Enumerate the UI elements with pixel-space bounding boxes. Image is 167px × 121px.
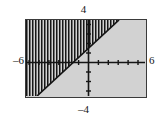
y-axis-min-label: –4 [0, 104, 167, 115]
shaded-solution-region [26, 20, 119, 96]
plot-area [25, 19, 147, 98]
graph-figure: 4 –6 6 –4 [0, 0, 167, 121]
x-axis-max-label: 6 [149, 55, 165, 66]
y-axis-max-label: 4 [0, 4, 167, 15]
x-axis-min-label: –6 [2, 55, 24, 66]
plot-canvas [26, 20, 145, 96]
